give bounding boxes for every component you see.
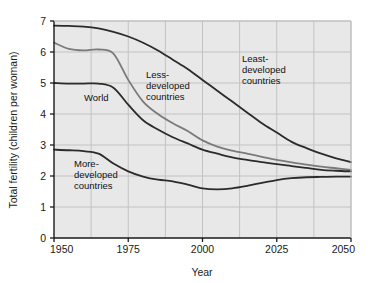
x-tick-label: 2050 — [332, 243, 356, 255]
y-axis-title: Total fertility (children per woman) — [7, 52, 19, 209]
y-tick-label: 6 — [40, 46, 46, 58]
y-tick-label: 0 — [40, 232, 46, 244]
y-tick-label: 1 — [40, 201, 46, 213]
y-axis-tick-labels: 01234567 — [40, 15, 46, 244]
x-tick-label: 2000 — [191, 243, 215, 255]
y-tick-label: 5 — [40, 77, 46, 89]
chart-canvas: 01234567 19501975200020252050 Year Total… — [0, 0, 374, 283]
series-label-world: World — [84, 92, 109, 103]
x-tick-label: 2025 — [265, 243, 289, 255]
y-tick-label: 3 — [40, 139, 46, 151]
x-axis-tick-labels: 19501975200020252050 — [50, 243, 355, 255]
y-tick-label: 2 — [40, 170, 46, 182]
x-tick-label: 1950 — [50, 243, 74, 255]
y-tick-label: 7 — [40, 15, 46, 27]
x-axis-title: Year — [191, 266, 213, 278]
x-tick-label: 1975 — [117, 243, 141, 255]
fertility-chart-figure: 01234567 19501975200020252050 Year Total… — [0, 0, 374, 283]
y-tick-label: 4 — [40, 108, 46, 120]
